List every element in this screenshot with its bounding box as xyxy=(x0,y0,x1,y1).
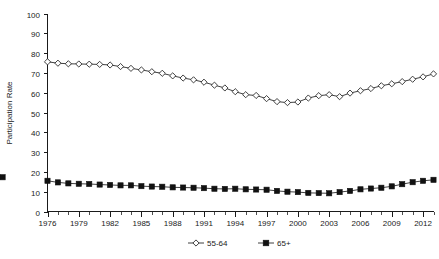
x-tick-label-2012: 2012 xyxy=(414,219,432,228)
x-tick-label-1991: 1991 xyxy=(195,219,213,228)
data-point-filled-square xyxy=(55,180,60,185)
x-tick-label-2003: 2003 xyxy=(320,219,338,228)
y-tick-label-80: 80 xyxy=(31,50,40,59)
data-point-filled-square xyxy=(420,178,425,183)
data-point-filled-square xyxy=(254,187,259,192)
data-point-filled-square xyxy=(379,185,384,190)
data-point-filled-square xyxy=(87,181,92,186)
y-tick-label-50: 50 xyxy=(31,110,40,119)
data-point-filled-square xyxy=(368,186,373,191)
data-point-filled-square xyxy=(222,186,227,191)
x-tick-label-1997: 1997 xyxy=(258,219,276,228)
data-point-filled-square xyxy=(212,186,217,191)
y-tick-label-30: 30 xyxy=(31,149,40,158)
legend-marker-filled-square-icon xyxy=(263,240,269,246)
legend-label: 65+ xyxy=(277,239,291,248)
data-point-filled-square xyxy=(431,177,436,182)
data-point-filled-square xyxy=(389,184,394,189)
data-point-filled-square xyxy=(201,186,206,191)
data-point-filled-square xyxy=(410,180,415,185)
data-point-filled-square xyxy=(107,182,112,187)
data-point-filled-square xyxy=(264,187,269,192)
data-point-filled-square xyxy=(337,190,342,195)
x-tick-label-2006: 2006 xyxy=(352,219,370,228)
data-point-filled-square xyxy=(139,184,144,189)
x-tick-label-1988: 1988 xyxy=(164,219,182,228)
data-point-filled-square xyxy=(243,187,248,192)
data-point-filled-square xyxy=(191,185,196,190)
x-tick-label-2009: 2009 xyxy=(383,219,401,228)
y-tick-label-10: 10 xyxy=(31,189,40,198)
y-tick-label-60: 60 xyxy=(31,90,40,99)
data-point-filled-square xyxy=(347,188,352,193)
data-point-filled-square xyxy=(66,181,71,186)
y-tick-label-70: 70 xyxy=(31,70,40,79)
data-point-filled-square xyxy=(285,189,290,194)
chart-background xyxy=(0,0,439,259)
x-tick-label-1976: 1976 xyxy=(39,219,57,228)
x-tick-label-1985: 1985 xyxy=(132,219,150,228)
y-tick-label-0: 0 xyxy=(36,209,41,218)
y-tick-label-20: 20 xyxy=(31,169,40,178)
y-axis-label: Participation Rate xyxy=(5,81,14,145)
x-tick-label-1982: 1982 xyxy=(101,219,119,228)
y-tick-label-100: 100 xyxy=(27,11,41,20)
data-point-filled-square xyxy=(97,182,102,187)
data-point-filled-square xyxy=(327,191,332,196)
data-point-filled-square xyxy=(76,181,81,186)
legend-label: 55-64 xyxy=(207,239,228,248)
chart-canvas: Participation Rate 010203040506070809010… xyxy=(0,0,439,259)
data-point-filled-square xyxy=(233,186,238,191)
data-point-filled-square xyxy=(316,190,321,195)
x-tick-label-1979: 1979 xyxy=(70,219,88,228)
y-tick-label-40: 40 xyxy=(31,129,40,138)
data-point-filled-square xyxy=(400,182,405,187)
data-point-filled-square xyxy=(170,185,175,190)
data-point-filled-square xyxy=(45,178,50,183)
data-point-filled-square xyxy=(160,184,165,189)
x-tick-label-2000: 2000 xyxy=(289,219,307,228)
data-point-filled-square xyxy=(0,175,5,180)
data-point-filled-square xyxy=(274,188,279,193)
data-point-filled-square xyxy=(118,183,123,188)
data-point-filled-square xyxy=(149,184,154,189)
data-point-filled-square xyxy=(358,187,363,192)
x-tick-label-1994: 1994 xyxy=(226,219,244,228)
data-point-filled-square xyxy=(181,185,186,190)
data-point-filled-square xyxy=(306,190,311,195)
y-tick-label-90: 90 xyxy=(31,30,40,39)
data-point-filled-square xyxy=(295,190,300,195)
participation-rate-chart: Participation Rate 010203040506070809010… xyxy=(0,0,439,259)
data-point-filled-square xyxy=(128,183,133,188)
